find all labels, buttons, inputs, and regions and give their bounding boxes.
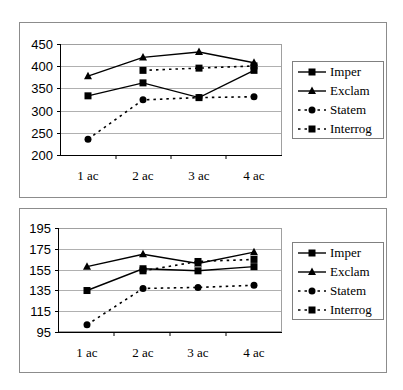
- x-category-label: 4 ac: [243, 345, 265, 360]
- bottom-y-tick-labels: 195 175 155 135 115 95: [29, 221, 51, 340]
- bottom-series: [83, 248, 258, 329]
- exclam-marker-triangle: [139, 250, 147, 258]
- bottom-legend: Imper Exclam Statem Interrog: [293, 243, 384, 320]
- statem-marker-circle: [140, 96, 147, 103]
- series-line-statem: [88, 97, 254, 139]
- imper-marker-square: [140, 79, 147, 86]
- legend-imper-marker-square: [309, 69, 316, 76]
- legend-statem-marker-circle: [309, 288, 316, 295]
- legend-label-statem: Statem: [330, 283, 366, 298]
- imper-marker-square: [85, 92, 92, 99]
- y-tick-label: 200: [31, 148, 53, 163]
- y-tick-label: 350: [31, 81, 53, 96]
- x-category-label: 1 ac: [77, 168, 99, 183]
- legend-interrog-marker-square: [309, 307, 316, 314]
- series-line-statem: [87, 285, 254, 324]
- x-category-label: 2 ac: [132, 345, 154, 360]
- top-gridlines: [60, 45, 282, 134]
- interrog-marker-square: [196, 65, 203, 72]
- bottom-plot-area: [59, 229, 282, 332]
- series-line-exclam: [88, 52, 254, 76]
- legend-label-interrog: Interrog: [330, 121, 372, 136]
- top-series: [84, 48, 258, 143]
- top-y-tick-labels: 450 400 350 300 250 200: [31, 37, 53, 163]
- y-tick-label: 115: [30, 304, 51, 319]
- y-tick-label: 155: [29, 263, 51, 278]
- top-x-category-labels: 1 ac 2 ac 3 ac 4 ac: [77, 168, 265, 183]
- y-tick-label: 175: [29, 242, 51, 257]
- exclam-marker-triangle: [250, 248, 258, 256]
- x-category-label: 4 ac: [243, 168, 265, 183]
- legend-label-interrog: Interrog: [330, 302, 372, 317]
- x-category-label: 2 ac: [132, 168, 154, 183]
- exclam-marker-triangle: [195, 48, 203, 56]
- top-legend: Imper Exclam Statem Interrog: [293, 62, 384, 139]
- x-category-label: 1 ac: [76, 345, 98, 360]
- x-category-label: 3 ac: [188, 168, 210, 183]
- interrog-marker-square: [140, 67, 147, 74]
- legend-statem-marker-circle: [309, 107, 316, 114]
- legend-label-imper: Imper: [330, 64, 362, 79]
- y-tick-label: 195: [29, 221, 51, 236]
- bottom-chart: 195 175 155 135 115 95 1 ac 2 ac 3 ac 4 …: [29, 221, 383, 360]
- statem-marker-circle: [251, 93, 258, 100]
- y-tick-label: 400: [31, 59, 53, 74]
- imper-marker-square: [195, 267, 202, 274]
- statem-marker-circle: [195, 284, 202, 291]
- statem-marker-circle: [196, 94, 203, 101]
- legend-label-imper: Imper: [330, 245, 362, 260]
- series-line-exclam: [87, 252, 254, 267]
- statem-marker-circle: [251, 282, 258, 289]
- imper-marker-square: [84, 287, 91, 294]
- y-tick-label: 250: [31, 126, 53, 141]
- interrog-marker-square: [251, 256, 258, 263]
- series-line-imper: [88, 70, 254, 97]
- top-chart: 450 400 350 300 250 200 1 ac 2 ac 3 ac 4…: [31, 37, 383, 183]
- interrog-marker-square: [251, 62, 258, 69]
- x-category-label: 3 ac: [187, 345, 209, 360]
- interrog-marker-square: [195, 258, 202, 265]
- legend-label-exclam: Exclam: [330, 83, 370, 98]
- legend-label-statem: Statem: [330, 102, 366, 117]
- legend-interrog-marker-square: [309, 126, 316, 133]
- y-tick-label: 135: [29, 283, 51, 298]
- bottom-x-category-labels: 1 ac 2 ac 3 ac 4 ac: [76, 345, 265, 360]
- legend-label-exclam: Exclam: [330, 264, 370, 279]
- legend-imper-marker-square: [309, 250, 316, 257]
- statem-marker-circle: [84, 321, 91, 328]
- interrog-marker-square: [140, 267, 147, 274]
- y-tick-label: 450: [31, 37, 53, 52]
- statem-marker-circle: [85, 136, 92, 143]
- imper-marker-square: [251, 263, 258, 270]
- y-tick-label: 95: [37, 325, 51, 340]
- charts-canvas: 450 400 350 300 250 200 1 ac 2 ac 3 ac 4…: [0, 0, 403, 390]
- statem-marker-circle: [140, 285, 147, 292]
- y-tick-label: 300: [31, 104, 53, 119]
